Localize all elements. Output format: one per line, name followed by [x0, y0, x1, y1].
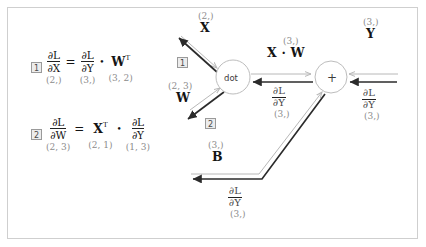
formula2-lhs-den: ∂W [50, 128, 66, 140]
label-w-name: W [176, 92, 190, 105]
formula1-operator: • [99, 58, 104, 67]
formula1-rhs-term-dim: (3, 2) [109, 73, 133, 83]
formula-step-marker-2: 2 [31, 129, 42, 140]
formula1-rhs-den: ∂Y [81, 61, 93, 73]
label-xw-name: X · W [267, 47, 305, 60]
formula1-rhs-frac-dim: (3,) [80, 75, 96, 85]
label-grad-y-right-num: ∂L [362, 88, 376, 99]
formula1-rhs-transpose: T [125, 53, 130, 61]
graph-step-marker-1: 1 [177, 57, 188, 68]
formula1-rhs-symbol: W [111, 54, 125, 69]
formula1-lhs-dim: (2,) [46, 75, 62, 85]
label-x-name: X [200, 22, 210, 35]
formula-step-marker-1: 1 [31, 62, 42, 73]
formula1-rhs-frac: ∂L ∂Y [81, 50, 93, 73]
formula2-rhs-num: ∂L [132, 117, 144, 128]
node-dot-label: dot [224, 73, 238, 83]
formula2-lhs-symbol: X [93, 121, 103, 136]
label-grad-b: ∂L ∂Y [228, 186, 242, 208]
label-grad-y-right: ∂L ∂Y [362, 88, 376, 110]
formula-dldx: 1 ∂L ∂X (2,) = ∂L ∂Y (3,) • [31, 50, 133, 85]
formula2-lhs: ∂L ∂W [50, 117, 66, 140]
formula1-lhs-den: ∂X [47, 61, 60, 73]
formula2-lhs-transpose: T [103, 120, 108, 128]
label-grad-xw-den: ∂Y [272, 97, 286, 109]
label-grad-y-right-den: ∂Y [362, 99, 376, 111]
label-grad-y-right-dim: (3,) [364, 112, 380, 121]
label-grad-b-dim: (3,) [230, 210, 246, 219]
formula2-rhs-den: ∂Y [132, 128, 144, 140]
formula1-rhs-num: ∂L [81, 50, 93, 61]
formula2-rhs-frac-dim: (1, 3) [126, 142, 150, 152]
label-b-name: B [212, 151, 223, 164]
formula2-lhs-num: ∂L [50, 117, 66, 128]
formula2-rhs-frac: ∂L ∂Y [132, 117, 144, 140]
formula2-operator: • [116, 125, 121, 134]
label-y-name: Y [366, 28, 375, 41]
formula2-lhs-dim: (2, 3) [46, 142, 70, 152]
formula2-equals: = [74, 123, 84, 135]
node-plus-label: + [327, 71, 337, 85]
label-grad-xw-num: ∂L [272, 86, 286, 97]
label-grad-xw: ∂L ∂Y [272, 86, 286, 108]
formula-dldw: 2 ∂L ∂W (2, 3) = XT (2, 1) • [31, 117, 150, 152]
label-grad-b-den: ∂Y [228, 197, 242, 209]
formula1-lhs-num: ∂L [47, 50, 60, 61]
formula1-lhs: ∂L ∂X [47, 50, 60, 73]
figure-canvas: dot + 1 ∂L ∂X (2,) = ∂L ∂Y (3, [0, 0, 426, 247]
graph-step-marker-2: 2 [205, 118, 216, 129]
formula1-equals: = [66, 56, 76, 68]
formula2-rhs-term-dim: (2, 1) [88, 140, 112, 150]
label-grad-xw-dim: (3,) [274, 110, 290, 119]
label-grad-b-num: ∂L [228, 186, 242, 197]
